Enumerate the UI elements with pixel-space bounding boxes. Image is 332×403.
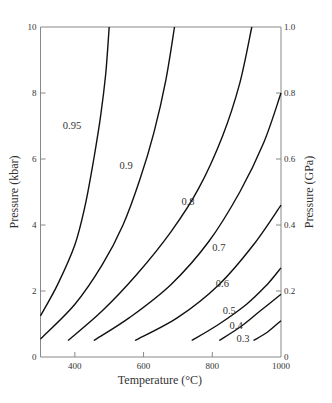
curve-0-95 <box>41 27 110 316</box>
isopleth-curves <box>41 27 282 341</box>
curve-label: 0.3 <box>236 333 249 344</box>
y-tick-label: 2 <box>32 286 37 296</box>
plot-frame <box>41 27 282 357</box>
y-right-tick-label: 0.8 <box>284 88 296 98</box>
x-axis-label: Temperature (°C) <box>118 373 202 387</box>
curve-label: 0.7 <box>212 242 225 253</box>
curve-label: 0.5 <box>223 305 236 316</box>
curve-0-7 <box>94 93 281 341</box>
curve-0-6 <box>135 205 281 340</box>
y-right-tick-label: 1.0 <box>284 22 296 32</box>
curve-label: 0.4 <box>230 320 244 331</box>
curve-label: 0.9 <box>120 160 133 171</box>
x-tick-label: 800 <box>206 361 220 371</box>
x-axis-ticks: 4006008001000 <box>68 352 290 371</box>
x-tick-label: 1000 <box>272 361 291 371</box>
y-axis-right-label: Pressure (GPa) <box>302 156 316 228</box>
curve-0-3 <box>254 321 282 341</box>
curve-label: 0.95 <box>63 120 81 131</box>
y-right-tick-label: 0.6 <box>284 154 296 164</box>
y-right-tick-label: 0.2 <box>284 286 295 296</box>
curve-label: 0.8 <box>181 196 194 207</box>
y-tick-label: 4 <box>32 220 37 230</box>
y-right-tick-label: 0.4 <box>284 220 296 230</box>
y-axis-left-label: Pressure (kbar) <box>7 156 21 229</box>
y-right-tick-label: 0 <box>284 352 289 362</box>
x-tick-label: 400 <box>68 361 82 371</box>
y-tick-label: 0 <box>32 352 37 362</box>
y-axis-right-ticks: 00.20.40.60.81.0 <box>276 22 296 362</box>
x-tick-label: 600 <box>137 361 151 371</box>
y-tick-label: 6 <box>32 154 37 164</box>
pressure-temperature-chart: 4006008001000 0246810 00.20.40.60.81.0 0… <box>0 0 332 403</box>
curve-0-9 <box>41 27 175 339</box>
curve-labels: 0.950.90.80.70.60.50.40.3 <box>63 120 250 344</box>
y-tick-label: 8 <box>32 88 37 98</box>
y-tick-label: 10 <box>28 22 38 32</box>
curve-label: 0.6 <box>216 278 229 289</box>
